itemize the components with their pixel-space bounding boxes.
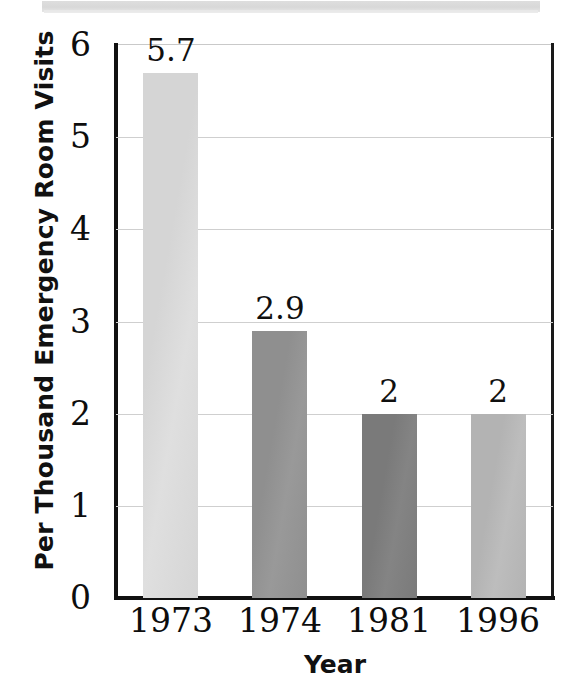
x-axis-label: Year	[0, 650, 584, 679]
y-tick-label-6: 6	[47, 28, 91, 61]
x-tick-label-1981: 1981	[329, 604, 449, 637]
bar-value-label-1973: 5.7	[111, 35, 231, 66]
x-tick-label-1973: 1973	[111, 604, 231, 637]
bar-value-label-1974: 2.9	[220, 293, 340, 324]
y-tick-label-1: 1	[47, 489, 91, 522]
bar-value-label-1996: 2	[438, 376, 558, 407]
y-tick-label-3: 3	[47, 305, 91, 338]
x-axis-label-text: Year	[304, 650, 366, 679]
bar-1996	[471, 414, 526, 598]
y-tick-label-2: 2	[47, 397, 91, 430]
y-tick-label-5: 5	[47, 120, 91, 153]
y-tick-label-4: 4	[47, 212, 91, 245]
x-tick-label-1996: 1996	[438, 604, 558, 637]
bar-value-label-1981: 2	[329, 376, 449, 407]
bar-1981	[362, 414, 417, 598]
y-tick-label-0: 0	[47, 581, 91, 614]
bar-1973	[143, 73, 198, 598]
chart-page: Per Thousand Emergency Room Visits 01234…	[0, 0, 584, 700]
bar-chart-figure: Per Thousand Emergency Room Visits 01234…	[0, 0, 584, 700]
bar-1974	[252, 331, 307, 598]
x-tick-label-1974: 1974	[220, 604, 340, 637]
